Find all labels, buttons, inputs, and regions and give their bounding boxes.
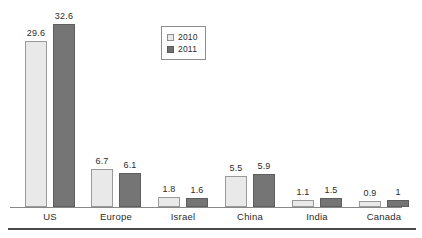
bar-value-label: 5.5 bbox=[229, 164, 242, 173]
bar-value-label: 32.6 bbox=[55, 12, 73, 21]
bar-israel-2011[interactable]: 1.6 bbox=[186, 186, 208, 207]
category-label-canada: Canada bbox=[348, 210, 420, 224]
category-label-india: India bbox=[281, 210, 353, 224]
bar-rect bbox=[91, 169, 113, 207]
category-label-us: US bbox=[14, 210, 86, 224]
legend-label: 2010 bbox=[178, 33, 198, 42]
legend-swatch-icon bbox=[167, 46, 174, 53]
bar-value-label: 1.5 bbox=[324, 186, 337, 195]
bar-value-label: 1.8 bbox=[162, 185, 175, 194]
bar-israel-2010[interactable]: 1.8 bbox=[158, 185, 180, 207]
bar-china-2011[interactable]: 5.9 bbox=[253, 162, 275, 207]
bar-value-label: 1.6 bbox=[190, 186, 203, 195]
bar-rect bbox=[387, 200, 409, 207]
chart-legend: 2010 2011 bbox=[161, 26, 206, 60]
bar-rect bbox=[292, 200, 314, 207]
bar-rect bbox=[53, 24, 75, 207]
category-axis-labels: US Europe Israel China India Canada bbox=[0, 210, 422, 226]
category-label-china: China bbox=[214, 210, 286, 224]
bar-us-2011[interactable]: 32.6 bbox=[53, 12, 75, 207]
bar-rect bbox=[320, 198, 342, 207]
legend-item-2010[interactable]: 2010 bbox=[167, 31, 205, 43]
legend-swatch-icon bbox=[167, 34, 174, 41]
bar-rect bbox=[25, 41, 47, 207]
category-label-europe: Europe bbox=[80, 210, 152, 224]
bar-rect bbox=[158, 197, 180, 207]
bar-canada-2010[interactable]: 0.9 bbox=[359, 189, 381, 207]
bar-group-us: 29.6 32.6 bbox=[14, 0, 86, 208]
bar-group-china: 5.5 5.9 bbox=[214, 0, 286, 208]
bar-india-2011[interactable]: 1.5 bbox=[320, 186, 342, 207]
bar-value-label: 1 bbox=[395, 188, 400, 197]
bar-value-label: 1.1 bbox=[296, 188, 309, 197]
bar-group-canada: 0.9 1 bbox=[348, 0, 420, 208]
bar-rect bbox=[119, 173, 141, 207]
bar-europe-2010[interactable]: 6.7 bbox=[91, 157, 113, 207]
legend-item-2011[interactable]: 2011 bbox=[167, 43, 205, 55]
bottom-rule bbox=[8, 228, 416, 230]
plot-area: 29.6 32.6 6.7 6.1 bbox=[0, 0, 422, 209]
bar-group-india: 1.1 1.5 bbox=[281, 0, 353, 208]
bar-us-2010[interactable]: 29.6 bbox=[25, 29, 47, 207]
category-axis-line bbox=[10, 207, 402, 208]
bar-rect bbox=[253, 174, 275, 207]
bar-europe-2011[interactable]: 6.1 bbox=[119, 161, 141, 207]
category-label-israel: Israel bbox=[147, 210, 219, 224]
bar-canada-2011[interactable]: 1 bbox=[387, 188, 409, 207]
bar-value-label: 29.6 bbox=[27, 29, 45, 38]
bar-value-label: 6.1 bbox=[123, 161, 136, 170]
bar-chart: 29.6 32.6 6.7 6.1 bbox=[0, 0, 422, 238]
bar-group-europe: 6.7 6.1 bbox=[80, 0, 152, 208]
bar-groups: 29.6 32.6 6.7 6.1 bbox=[0, 0, 422, 208]
legend-label: 2011 bbox=[178, 45, 197, 54]
bar-value-label: 6.7 bbox=[95, 157, 108, 166]
bar-value-label: 0.9 bbox=[363, 189, 376, 198]
bar-china-2010[interactable]: 5.5 bbox=[225, 164, 247, 207]
bar-rect bbox=[186, 198, 208, 207]
bar-value-label: 5.9 bbox=[257, 162, 270, 171]
bar-rect bbox=[225, 176, 247, 207]
bar-india-2010[interactable]: 1.1 bbox=[292, 188, 314, 207]
